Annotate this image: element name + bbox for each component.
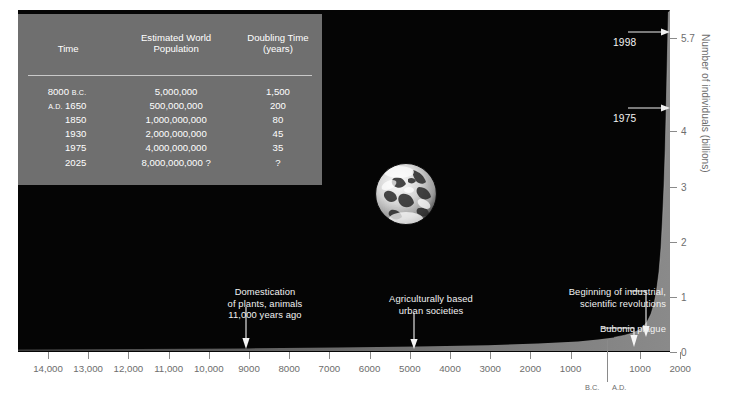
x-axis-tick bbox=[490, 352, 491, 359]
x-axis-tick bbox=[329, 352, 330, 359]
x-axis-tick-label: 9000 bbox=[238, 363, 260, 374]
callout-year-1998: 1998 bbox=[613, 37, 636, 48]
y-axis-title: Number of individuals (billions) bbox=[700, 34, 711, 264]
population-data-table: Time Estimated World Population Doubling… bbox=[18, 14, 322, 185]
annotation-domestication: Domestication of plants, animals 11,000 … bbox=[195, 286, 335, 321]
x-axis-tick-label: 10,000 bbox=[194, 363, 224, 374]
y-axis-tick bbox=[670, 38, 677, 39]
header-population-line2: Population bbox=[118, 43, 234, 54]
x-axis-tick-label: 5000 bbox=[399, 363, 421, 374]
header-population-line1: Estimated World bbox=[118, 32, 234, 43]
era-tag: A.D. bbox=[48, 103, 65, 111]
header-time: Time bbox=[18, 32, 118, 55]
y-axis-tick-label: 3 bbox=[681, 181, 687, 192]
cell-doubling-time: 1,500 bbox=[234, 84, 322, 98]
y-axis-tick bbox=[670, 187, 677, 188]
header-doubling-line1: Doubling Time bbox=[234, 32, 322, 43]
x-axis-tick-label: 4000 bbox=[439, 363, 461, 374]
annotation-agricultural: Agriculturally based urban societies bbox=[366, 293, 496, 316]
x-axis-tick-label: 11,000 bbox=[154, 363, 183, 374]
x-axis-tick bbox=[128, 352, 129, 359]
table-header-divider bbox=[28, 75, 312, 76]
cell-doubling-time: 80 bbox=[234, 112, 322, 126]
x-axis-tick-label: 14,000 bbox=[33, 363, 63, 374]
x-axis-tick-label: 6000 bbox=[359, 363, 381, 374]
cell-population: 1,000,000,000 bbox=[118, 112, 234, 126]
x-axis-tick-label: 8000 bbox=[278, 363, 300, 374]
x-axis-tick bbox=[289, 352, 290, 359]
table-body: 8000 B.C.5,000,0001,500A.D. 1650500,000,… bbox=[18, 84, 322, 169]
x-axis-tick bbox=[640, 352, 641, 359]
cell-time: 1850 bbox=[18, 112, 118, 126]
header-estimated-population: Estimated World Population bbox=[118, 32, 234, 55]
y-axis-tick bbox=[670, 297, 677, 298]
x-axis-tick bbox=[370, 352, 371, 359]
y-axis-tick-label: 1 bbox=[681, 291, 687, 302]
x-axis-tick bbox=[680, 352, 681, 359]
x-axis-tick bbox=[450, 352, 451, 359]
table-row: A.D. 1650500,000,000200 bbox=[18, 98, 322, 112]
chart-plot-area: Domestication of plants, animals 11,000 … bbox=[18, 10, 670, 352]
era-label-bc: B.C. bbox=[585, 383, 599, 392]
cell-doubling-time: 200 bbox=[234, 98, 322, 112]
x-axis-tick bbox=[410, 352, 411, 359]
x-axis-tick-label: 2000 bbox=[669, 363, 691, 374]
x-axis-tick-label: 12,000 bbox=[114, 363, 144, 374]
cell-time: 8000 B.C. bbox=[18, 84, 118, 98]
x-axis-tick-label: 7000 bbox=[319, 363, 341, 374]
annotation-bubonic-plague: Bubonic plague bbox=[486, 323, 666, 335]
cell-doubling-time: 45 bbox=[234, 127, 322, 141]
table-row: 19754,000,000,00035 bbox=[18, 141, 322, 155]
cell-time: 1930 bbox=[18, 127, 118, 141]
bc-ad-divider bbox=[607, 340, 608, 382]
table-row: 8000 B.C.5,000,0001,500 bbox=[18, 84, 322, 98]
cell-population: 8,000,000,000 ? bbox=[118, 155, 234, 169]
header-doubling-line2: (years) bbox=[234, 43, 322, 54]
table-header-row: Time Estimated World Population Doubling… bbox=[18, 32, 322, 55]
population-growth-figure: Domestication of plants, animals 11,000 … bbox=[0, 0, 729, 401]
era-label-ad: A.D. bbox=[612, 383, 626, 392]
earth-globe-icon bbox=[375, 163, 437, 225]
cell-time: A.D. 1650 bbox=[18, 98, 118, 112]
x-axis-tick-label: 1000 bbox=[560, 363, 582, 374]
header-doubling-time: Doubling Time (years) bbox=[234, 32, 322, 55]
x-axis: B.C. A.D. 14,00013,00012,00011,00010,000… bbox=[0, 352, 729, 401]
x-axis-tick bbox=[249, 352, 250, 359]
cell-population: 500,000,000 bbox=[118, 98, 234, 112]
x-axis-tick-label: 2000 bbox=[520, 363, 542, 374]
x-axis-tick bbox=[88, 352, 89, 359]
y-axis-tick bbox=[670, 242, 677, 243]
callout-year-1975: 1975 bbox=[613, 113, 636, 124]
y-axis-tick-label: 5.7 bbox=[681, 32, 695, 43]
x-axis-tick-label: 3000 bbox=[479, 363, 501, 374]
x-axis-tick-label: 13,000 bbox=[73, 363, 103, 374]
x-axis-tick bbox=[530, 352, 531, 359]
y-axis-tick bbox=[670, 131, 677, 132]
table-rows-container: 8000 B.C.5,000,0001,500A.D. 1650500,000,… bbox=[18, 84, 322, 169]
x-axis-tick-label: 1000 bbox=[629, 363, 651, 374]
table-row: 18501,000,000,00080 bbox=[18, 112, 322, 126]
y-axis-tick-label: 4 bbox=[681, 126, 687, 137]
cell-doubling-time: 35 bbox=[234, 141, 322, 155]
x-axis-tick bbox=[571, 352, 572, 359]
x-axis-tick bbox=[169, 352, 170, 359]
cell-population: 2,000,000,000 bbox=[118, 127, 234, 141]
cell-time: 1975 bbox=[18, 141, 118, 155]
y-axis: Number of individuals (billions) 012345.… bbox=[670, 10, 729, 362]
y-axis-tick-label: 2 bbox=[681, 236, 687, 247]
annotation-industrial-revolution: Beginning of industrial, scientific revo… bbox=[486, 286, 666, 309]
earth-photograph bbox=[375, 163, 437, 225]
table-row: 19302,000,000,00045 bbox=[18, 127, 322, 141]
era-tag: B.C. bbox=[72, 89, 87, 97]
cell-population: 5,000,000 bbox=[118, 84, 234, 98]
x-axis-tick bbox=[48, 352, 49, 359]
cell-time: 2025 bbox=[18, 155, 118, 169]
cell-population: 4,000,000,000 bbox=[118, 141, 234, 155]
cell-doubling-time: ? bbox=[234, 155, 322, 169]
x-axis-tick bbox=[209, 352, 210, 359]
table-row: 20258,000,000,000 ?? bbox=[18, 155, 322, 169]
